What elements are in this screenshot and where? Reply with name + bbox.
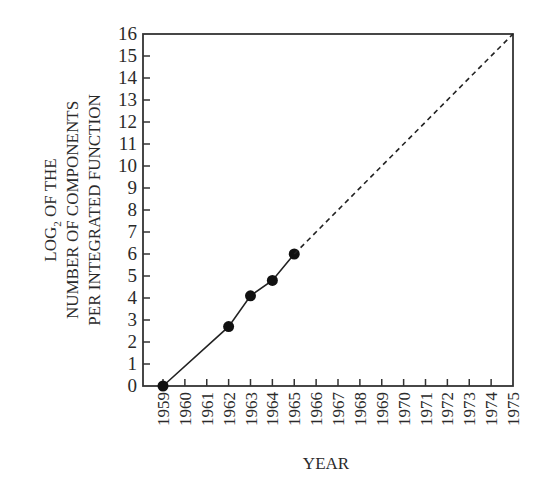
y-tick-label: 10	[118, 155, 137, 176]
y-axis-title-line3: PER INTEGRATED FUNCTION	[85, 94, 104, 325]
x-tick-label: 1975	[504, 392, 523, 426]
x-tick-label: 1964	[263, 392, 282, 427]
y-tick-label: 6	[128, 243, 138, 264]
x-tick-label: 1970	[395, 392, 414, 426]
x-tick-label: 1966	[307, 392, 326, 426]
extrapolation-line	[294, 34, 513, 254]
plot-frame	[143, 34, 513, 386]
y-tick-label: 3	[128, 309, 138, 330]
plot-border	[143, 34, 513, 386]
y-axis-title-line1: LOG2 OF THE	[41, 158, 63, 261]
x-tick-label: 1973	[460, 392, 479, 426]
data-point-marker	[245, 290, 256, 301]
x-tick-label: 1965	[285, 392, 304, 426]
y-tick-label: 7	[128, 221, 138, 242]
y-tick-label: 14	[118, 67, 138, 88]
y-tick-label: 16	[118, 23, 137, 44]
observed-line	[163, 254, 294, 386]
moores-law-chart: 012345678910111213141516 195919601961196…	[0, 0, 556, 498]
y-tick-label: 1	[128, 353, 138, 374]
x-tick-label: 1971	[417, 392, 436, 426]
y-axis-title-line2: NUMBER OF COMPONENTS	[63, 101, 82, 319]
x-tick-label: 1962	[220, 392, 239, 426]
y-axis-title: LOG2 OF THE NUMBER OF COMPONENTS PER INT…	[41, 94, 104, 325]
x-tick-label: 1969	[373, 392, 392, 426]
x-tick-label: 1974	[482, 392, 501, 427]
x-tick-label: 1961	[198, 392, 217, 426]
x-axis-title: YEAR	[303, 454, 350, 473]
x-tick-label: 1967	[329, 392, 348, 427]
y-tick-label: 2	[128, 331, 138, 352]
data-point-marker	[223, 321, 234, 332]
y-axis-ticks: 012345678910111213141516	[118, 23, 150, 396]
y-tick-label: 4	[128, 287, 138, 308]
data-point-marker	[267, 275, 278, 286]
y-tick-label: 8	[128, 199, 138, 220]
x-tick-label: 1963	[242, 392, 261, 426]
y-tick-label: 0	[128, 375, 138, 396]
x-tick-label: 1972	[438, 392, 457, 426]
x-tick-label: 1959	[154, 392, 173, 426]
y-tick-label: 13	[118, 89, 137, 110]
x-tick-label: 1968	[351, 392, 370, 426]
data-point-marker	[158, 381, 169, 392]
y-tick-label: 12	[118, 111, 137, 132]
y-tick-label: 5	[128, 265, 138, 286]
y-tick-label: 15	[118, 45, 137, 66]
data-series	[158, 34, 514, 392]
y-tick-label: 11	[119, 133, 137, 154]
y-tick-label: 9	[128, 177, 138, 198]
x-tick-label: 1960	[176, 392, 195, 426]
